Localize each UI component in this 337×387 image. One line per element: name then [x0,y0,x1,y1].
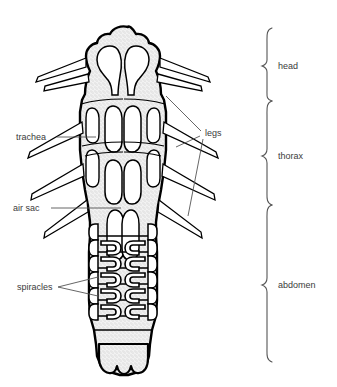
abdomen-tail-tip [99,344,148,374]
label-spiracles: spiracles [17,282,53,292]
leader-legs-c [188,139,203,216]
brace-thorax [262,101,272,205]
label-region-thorax: thorax [278,151,304,161]
label-air-sac: air sac [13,203,40,213]
label-region-abdomen: abdomen [278,280,316,290]
insect-body-outline [80,26,166,375]
region-braces [262,28,272,362]
label-trachea: trachea [16,132,46,142]
brace-head [262,28,272,101]
label-legs: legs [205,128,222,138]
brace-abdomen [262,205,272,362]
label-region-head: head [278,61,298,71]
insect-diagram: trachea air sac spiracles legs head thor… [0,0,337,387]
figure-canvas: trachea air sac spiracles legs head thor… [0,0,337,387]
